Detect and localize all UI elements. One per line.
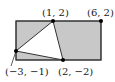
label-leader-line xyxy=(11,51,16,66)
point-1-2 xyxy=(51,19,55,23)
label-point-2-neg2: (2, −2) xyxy=(58,66,93,77)
label-point-6-2: (6, 2) xyxy=(87,7,114,18)
point-neg3-neg1 xyxy=(14,49,18,53)
point-6-2 xyxy=(99,19,103,23)
label-point-1-2: (1, 2) xyxy=(42,7,69,18)
point-2-neg2 xyxy=(61,58,65,62)
geometry-diagram: (1, 2) (6, 2) (−3, −1) (2, −2) xyxy=(0,0,115,82)
label-point-neg3-neg1: (−3, −1) xyxy=(5,66,49,77)
